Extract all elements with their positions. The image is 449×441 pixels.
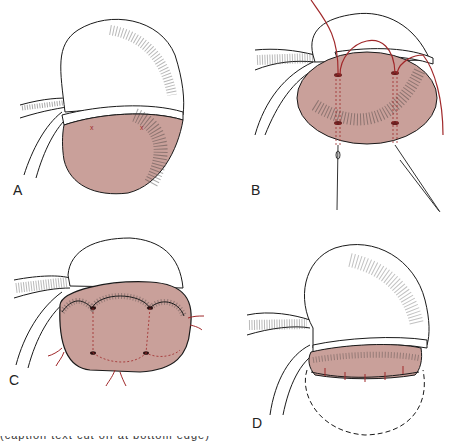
panel-label-d: D bbox=[252, 415, 262, 431]
panel-d-drawing bbox=[225, 220, 449, 435]
panel-a: x x A bbox=[0, 0, 225, 210]
panel-d: D bbox=[225, 220, 449, 435]
figure-caption-text: (caption text cut off at bottom edge) bbox=[0, 436, 449, 441]
panel-label-a: A bbox=[13, 182, 22, 198]
figure-caption-cutoff: (caption text cut off at bottom edge) bbox=[0, 436, 449, 441]
panel-c-drawing bbox=[0, 220, 225, 410]
panel-b: B bbox=[225, 0, 449, 220]
panel-label-c: C bbox=[9, 372, 19, 388]
panel-label-b: B bbox=[251, 182, 260, 198]
svg-text:x: x bbox=[90, 124, 94, 131]
panel-c: C bbox=[0, 220, 225, 410]
svg-text:x: x bbox=[140, 124, 144, 131]
panel-a-drawing: x x bbox=[0, 0, 225, 210]
